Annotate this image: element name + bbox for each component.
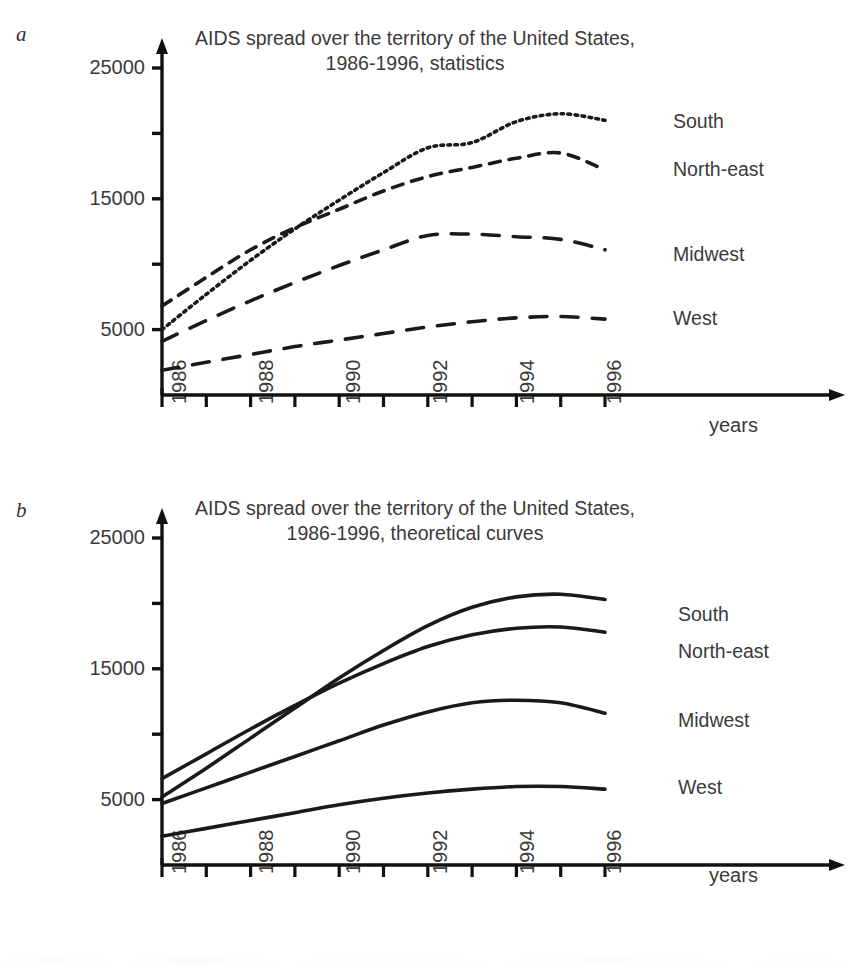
series-curve-north-east (162, 153, 605, 307)
series-curve-west (162, 316, 605, 370)
chart-panel-b: b AIDS spread over the territory of the … (0, 480, 859, 900)
series-curve-south (162, 594, 605, 797)
chart-panel-a: a AIDS spread over the territory of the … (0, 0, 859, 480)
series-curve-south (162, 114, 605, 330)
chart-b-plot-area (0, 480, 859, 900)
page-edge-artifact (0, 958, 859, 966)
series-curve-west (162, 786, 605, 836)
series-curve-midwest (162, 234, 605, 342)
chart-a-plot-area (0, 0, 859, 480)
